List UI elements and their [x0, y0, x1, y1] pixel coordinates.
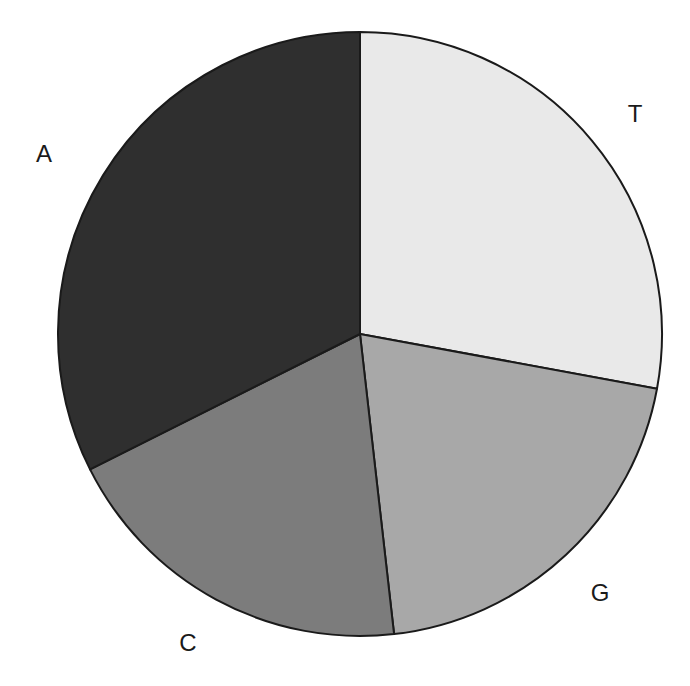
slice-label-t: T: [628, 100, 643, 127]
slice-label-g: G: [591, 579, 610, 606]
slice-label-c: C: [179, 629, 196, 656]
pie-chart: TGCA: [0, 0, 690, 686]
pie-slice-t: [360, 32, 662, 389]
slice-label-a: A: [36, 140, 52, 167]
pie-slices: [58, 32, 662, 636]
pie-chart-canvas: TGCA: [0, 0, 690, 686]
